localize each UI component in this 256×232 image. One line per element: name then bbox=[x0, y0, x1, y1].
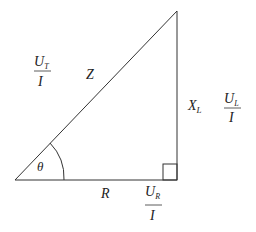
inductive-voltage-fraction: UL I bbox=[224, 91, 241, 125]
angle-label: θ bbox=[37, 159, 44, 174]
svg-text:I: I bbox=[37, 74, 44, 89]
vertical-side-label: XL bbox=[187, 98, 202, 115]
horizontal-side-label: R bbox=[100, 186, 110, 201]
impedance-triangle-diagram: θ Z R XL UT I UL I UR I bbox=[0, 0, 256, 232]
hypotenuse-line bbox=[15, 11, 177, 180]
svg-text:UL: UL bbox=[224, 91, 239, 108]
resistive-voltage-fraction: UR I bbox=[145, 184, 162, 223]
svg-text:I: I bbox=[228, 110, 235, 125]
svg-text:UR: UR bbox=[145, 184, 160, 201]
svg-text:UT: UT bbox=[34, 54, 49, 71]
svg-text:I: I bbox=[149, 208, 156, 223]
right-angle-marker bbox=[163, 164, 177, 180]
hypotenuse-label: Z bbox=[86, 67, 94, 82]
angle-arc bbox=[50, 143, 64, 180]
total-voltage-fraction: UT I bbox=[34, 54, 51, 89]
